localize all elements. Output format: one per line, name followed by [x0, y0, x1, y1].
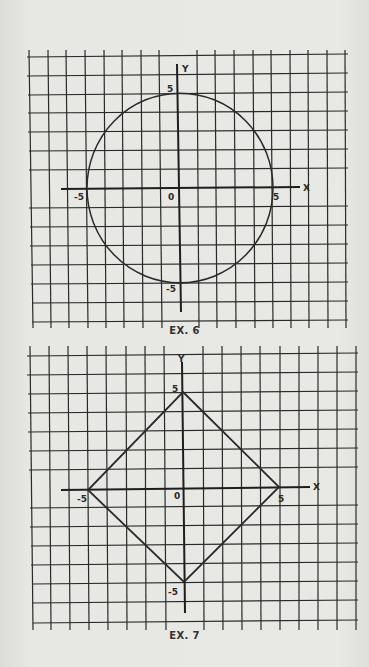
y-axis	[182, 362, 185, 613]
x-axis	[61, 187, 300, 189]
y-axis-label: Y	[181, 64, 189, 74]
x-axis	[61, 487, 310, 490]
textbook-page: Y X 5 -5 0 5 -5 EX. 6	[0, 0, 369, 667]
x-axis-label: X	[313, 482, 320, 492]
figure-ex6-graph: Y X 5 -5 0 5 -5	[0, 0, 369, 340]
figure-ex7-graph: Y X 5 -5 0 5 -5	[0, 330, 369, 667]
x-tick-neg5: -5	[77, 494, 87, 504]
origin-label: 0	[174, 491, 180, 501]
x-axis-label: X	[303, 183, 310, 193]
figure-caption-ex7: EX. 7	[0, 630, 369, 641]
x-tick-neg5: -5	[74, 192, 84, 202]
y-tick-5: 5	[172, 384, 178, 394]
x-tick-5: 5	[278, 494, 284, 504]
y-tick-5: 5	[167, 84, 173, 94]
y-axis-label: Y	[177, 354, 185, 364]
x-tick-5: 5	[273, 192, 279, 202]
y-tick-neg5: -5	[168, 587, 178, 597]
y-tick-neg5: -5	[166, 284, 176, 294]
origin-label: 0	[168, 192, 174, 202]
